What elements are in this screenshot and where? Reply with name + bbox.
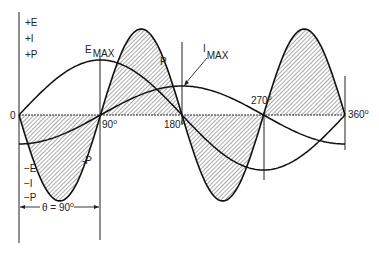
phase-label: θ = 90o [42,201,74,213]
e-max-label: EMAX [85,44,115,59]
legend-minus-e: −E [24,163,37,174]
origin-label: 0 [10,110,16,121]
legend-minus-i: −I [24,178,33,189]
p-positive-label: P [160,56,167,67]
legend-minus-p: −P [24,192,37,203]
i-max-arrowhead [184,80,189,86]
legend-plus-p: +P [25,49,38,60]
i-max-pointer [185,58,207,84]
angle-360-label: 360o [348,108,369,120]
angle-180-label: 180o [164,118,185,130]
angle-90-label: 90o [102,118,117,130]
i-max-label: IMAX [203,43,229,61]
p-negative-label: -P [82,155,92,166]
waveform-diagram: +E +I +P −E −I −P 0 90o 180o 270o 360o E… [0,0,379,253]
legend-plus-i: +I [25,33,34,44]
legend-plus-e: +E [25,17,38,28]
